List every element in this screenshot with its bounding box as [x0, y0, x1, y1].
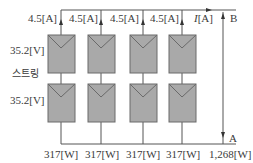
- string-1: [48, 10, 75, 144]
- terminal-b-arrow-icon: [221, 13, 225, 19]
- pv-module: [130, 84, 157, 122]
- terminal-a-label: A: [229, 133, 237, 144]
- string-current-label: 4.5[A]: [110, 13, 139, 24]
- pv-module: [48, 35, 75, 73]
- total-current-label: I[A]: [194, 13, 213, 24]
- string-power-label: 317[W]: [126, 149, 160, 160]
- pv-module: [130, 35, 157, 73]
- module-voltage-bottom-label: 35.2[V]: [10, 95, 45, 106]
- string-3: [130, 10, 157, 144]
- string-current-label: 4.5[A]: [69, 13, 98, 24]
- string-current-arrow-icon: [180, 19, 184, 25]
- module-voltage-top-label: 35.2[V]: [10, 45, 45, 56]
- terminal-a-arrow-icon: [221, 132, 225, 138]
- string-power-label: 317[W]: [166, 149, 200, 160]
- pv-module: [169, 35, 196, 73]
- string-current-arrow-icon: [99, 19, 103, 25]
- pv-module: [48, 84, 75, 122]
- pv-module: [88, 84, 115, 122]
- terminal-b-label: B: [230, 13, 237, 24]
- string-2: [88, 10, 115, 144]
- string-current-arrow-icon: [59, 19, 63, 25]
- string-4: [169, 10, 196, 144]
- pv-array-diagram: [0, 0, 253, 163]
- total-power-label: 1,268[W]: [209, 149, 251, 160]
- string-current-label: 4.5[A]: [28, 13, 57, 24]
- pv-module: [169, 84, 196, 122]
- pv-module: [88, 35, 115, 73]
- string-current-arrow-icon: [141, 19, 145, 25]
- string-power-label: 317[W]: [44, 149, 78, 160]
- string-label: 스트링: [12, 68, 39, 79]
- string-power-label: 317[W]: [85, 149, 119, 160]
- string-current-label: 4.5[A]: [150, 13, 179, 24]
